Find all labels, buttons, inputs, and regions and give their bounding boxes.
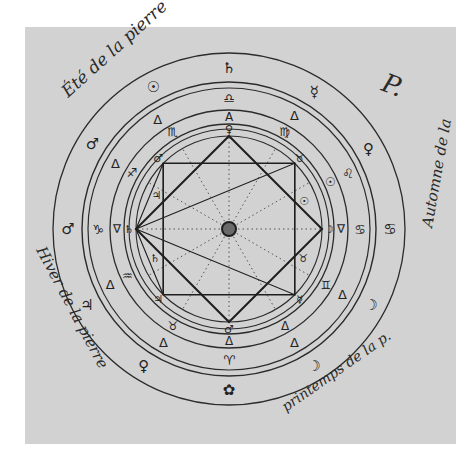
delta-icon: Δ [106,277,115,292]
jupiter-icon: ♃ [153,293,163,306]
delta-icon: Δ [290,108,299,123]
saturn-icon: ♄ [222,59,235,77]
moon-icon: ☽ [324,223,334,236]
delta-icon: Δ [338,287,347,302]
annotation-automne: Automne de la [418,117,455,231]
sun-icon: ☉ [325,175,336,189]
aquarius-icon: ♒ [122,269,133,283]
delta-down-icon: ∇ [336,222,346,236]
taurus-icon: ♉ [298,252,308,265]
saturn-icon: ♄ [124,223,134,236]
taurus-icon: ♉ [168,319,179,333]
venus-icon: ♀ [225,123,233,136]
cancer-icon: ♋ [354,222,366,237]
annotation-flourish: P. [377,67,407,103]
mars-icon: ♂ [86,135,99,153]
delta-icon: Δ [290,335,299,350]
mercury-icon: ☿ [296,293,303,306]
delta-icon: Δ [281,319,290,333]
scorpio-icon: ♏ [168,125,179,139]
mercury-icon: ☿ [310,83,319,101]
sun-icon: ☉ [299,195,309,208]
center-point [222,222,236,236]
virgo-icon: ♍ [280,125,291,139]
delta-icon: Δ [111,156,120,171]
venus-icon: ♀ [138,357,149,375]
venus-icon: ♀ [363,140,374,158]
capricorn-icon: ♑ [92,222,104,237]
libra-icon: ♎ [223,91,235,106]
taurus-icon: ♉ [295,152,305,165]
cancer-icon: ♋ [383,220,396,238]
annotation-hiver: Hiver de la pierre [32,243,112,372]
aries-icon: ♈ [223,353,235,368]
delta-icon: Δ [153,112,162,127]
mars-icon: ♂ [224,323,234,336]
jupiter-icon: ♃ [152,189,162,202]
saturn-icon: ♄ [150,252,160,265]
mars-icon: ♂ [61,220,74,238]
delta-icon: Δ [159,335,168,350]
moon-icon: ☽ [364,296,377,314]
leo-icon: ♌ [342,166,354,181]
mars-icon: ♂ [153,152,163,165]
alchemical-circle-diagram: ♄☉♂♂♃♀✿☽☽♀☿♋♎ΔΔ♑ΔΔ♈ΔΔ♋♌ΔA♏♐∇♒♉ΔΔ♊∇☉♍♀♉☽☿… [0,0,474,462]
delta-down-icon: ∇ [112,222,122,236]
gemini-icon: ♊ [321,278,332,292]
earth-rose-icon: ✿ [223,381,236,399]
sun-icon: ☉ [147,78,160,96]
delta-icon: Δ [225,334,234,348]
sagittarius-icon: ♐ [127,166,138,180]
